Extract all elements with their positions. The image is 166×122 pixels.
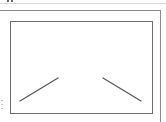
- handle-dots-icon: [7, 0, 14, 2]
- edge-marks: [1, 100, 3, 112]
- image-placeholder-frame[interactable]: [10, 21, 153, 114]
- thumbnail-stage: image-placeholder: [0, 0, 166, 122]
- top-divider: [0, 3, 166, 4]
